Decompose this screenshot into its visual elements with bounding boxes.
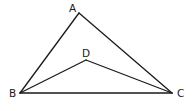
segment-bd (20, 60, 86, 93)
vertex-label-d: D (82, 47, 90, 59)
vertex-label-c: C (177, 87, 184, 99)
segment-dc (86, 60, 172, 93)
segment-ab (20, 13, 79, 93)
geometry-diagram: A B C D (0, 0, 193, 111)
vertex-label-b: B (9, 87, 16, 99)
segment-ac (79, 13, 172, 93)
vertex-label-a: A (69, 2, 77, 14)
